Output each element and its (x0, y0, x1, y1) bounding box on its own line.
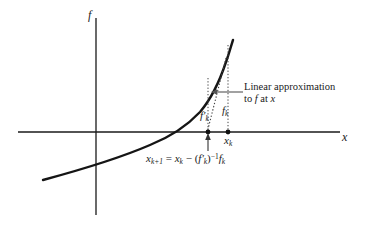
linear-approximation-annotation: Linear approximation to f at x (244, 81, 335, 104)
equation-equals: = (163, 152, 175, 164)
label-f-k-sub: k (225, 109, 228, 118)
label-f-k: fk (222, 104, 228, 118)
newton-method-figure: f x fk f′k xk Linear approximation to f … (0, 0, 367, 235)
equation-lhs-sub: k+1 (151, 157, 163, 166)
label-f-prime-k: f′k (200, 109, 209, 123)
annotation-line-2: to f at x (244, 93, 335, 105)
label-f-prime-k-sub: k (205, 114, 208, 123)
label-x-k: xk (224, 134, 232, 148)
figure-canvas (0, 0, 367, 235)
equation-term3-sub: k (222, 157, 225, 166)
annotation-x-symbol: x (271, 93, 276, 104)
equation-exponent: −1 (211, 152, 219, 161)
annotation-line-2-pre: to (244, 93, 255, 104)
axis-f-label: f (88, 8, 91, 23)
equation-arrow-head (205, 133, 211, 140)
annotation-line-1: Linear approximation (244, 81, 335, 93)
annotation-line-2-mid: at (258, 93, 271, 104)
axis-x-label: x (342, 130, 347, 145)
newton-update-equation: xk+1 = xk − (f′k)−1fk (146, 152, 225, 166)
label-x-k-sub: k (229, 139, 232, 148)
equation-minus: − (183, 152, 195, 164)
